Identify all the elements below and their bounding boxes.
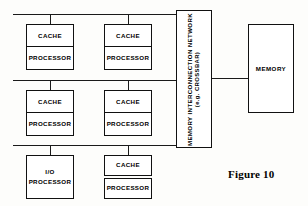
connector-stub-row1-right [128, 14, 129, 24]
processor-box: PROCESSOR [104, 112, 152, 136]
memory-interconnection-network-box: MEMORY INTERCONNECTION NETWORK (e.g. CRO… [176, 10, 212, 148]
processor-box: PROCESSOR [26, 112, 74, 136]
unit-io-processor: I/O PROCESSOR [26, 155, 74, 199]
unit-cache-processor-2: CACHE PROCESSOR [104, 24, 152, 72]
cache-box: CACHE [104, 155, 152, 176]
io-label: I/O [45, 167, 54, 177]
connector-stub-row2-left [50, 80, 51, 90]
bus-line-bottom [13, 145, 176, 146]
cache-box: CACHE [26, 24, 74, 48]
memory-box: MEMORY [248, 24, 294, 113]
network-memory-connector [212, 78, 248, 79]
unit-cache-processor-1: CACHE PROCESSOR [26, 24, 74, 72]
connector-stub-row3-right [128, 145, 129, 155]
cache-box: CACHE [104, 24, 152, 48]
network-label-line1: MEMORY INTERCONNECTION NETWORK [187, 12, 194, 145]
cache-box: CACHE [26, 90, 74, 114]
unit-cache-processor-3: CACHE PROCESSOR [26, 90, 74, 138]
processor-box: PROCESSOR [26, 46, 74, 70]
bus-line-top [13, 14, 176, 15]
connector-stub-row2-right [128, 80, 129, 90]
processor-box: PROCESSOR [104, 46, 152, 70]
connector-stub-row3-left [50, 145, 51, 155]
connector-stub-row1-left [50, 14, 51, 24]
figure-caption: Figure 10 [228, 168, 275, 180]
network-label-line2: (e.g. CROSSBAR) [194, 12, 201, 145]
bus-line-middle [13, 80, 176, 81]
figure-canvas: CACHE PROCESSOR CACHE PROCESSOR CACHE PR… [0, 0, 308, 206]
cache-box: CACHE [104, 90, 152, 114]
unit-cache-processor-5: CACHE PROCESSOR [104, 155, 152, 199]
network-label: MEMORY INTERCONNECTION NETWORK (e.g. CRO… [187, 12, 202, 145]
io-processor-label: PROCESSOR [29, 177, 72, 187]
unit-cache-processor-4: CACHE PROCESSOR [104, 90, 152, 138]
processor-box: PROCESSOR [104, 178, 152, 199]
